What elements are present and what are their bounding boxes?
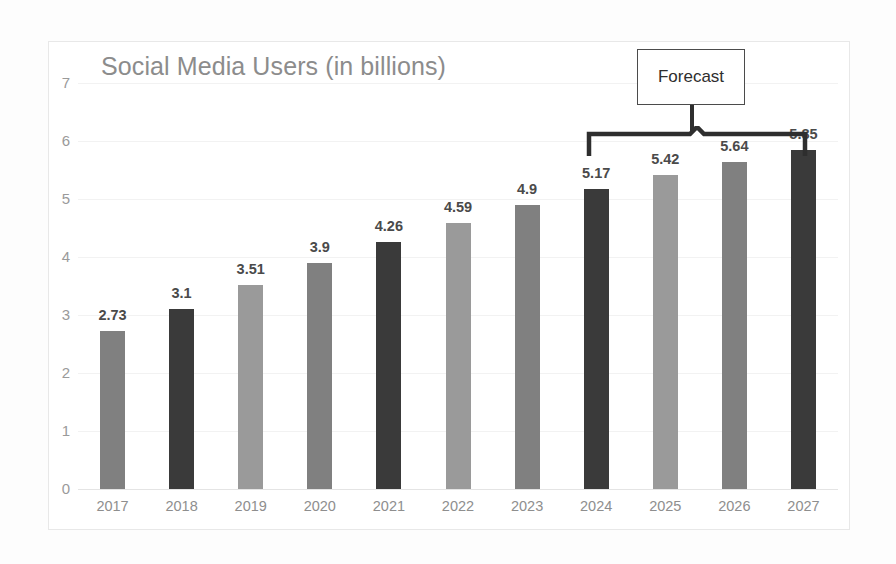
bar-2026[interactable] — [722, 162, 747, 489]
bar-2023[interactable] — [515, 205, 540, 489]
bar-value-label: 2.73 — [83, 307, 143, 323]
y-axis: 76543210 — [44, 83, 70, 489]
forecast-bracket-icon — [586, 126, 808, 158]
x-axis: 2017201820192020202120222023202420252026… — [78, 498, 838, 522]
bar-2017[interactable] — [100, 331, 125, 489]
forecast-annotation-label: Forecast — [637, 49, 745, 105]
bar-2021[interactable] — [376, 242, 401, 489]
bar-value-label: 3.9 — [290, 239, 350, 255]
x-axis-tick-label: 2024 — [566, 498, 626, 514]
x-axis-tick-label: 2026 — [704, 498, 764, 514]
bar-value-label: 5.17 — [566, 165, 626, 181]
x-axis-tick-label: 2018 — [152, 498, 212, 514]
y-axis-tick-label: 3 — [44, 306, 70, 323]
bar-2022[interactable] — [446, 223, 471, 489]
bar-2024[interactable] — [584, 189, 609, 489]
bar-2027[interactable] — [791, 150, 816, 489]
x-axis-tick-label: 2020 — [290, 498, 350, 514]
x-axis-tick-label: 2027 — [773, 498, 833, 514]
bar-2025[interactable] — [653, 175, 678, 489]
bar-2018[interactable] — [169, 309, 194, 489]
chart-title: Social Media Users (in billions) — [101, 52, 446, 81]
x-axis-tick-label: 2025 — [635, 498, 695, 514]
y-axis-tick-label: 6 — [44, 132, 70, 149]
x-axis-tick-label: 2021 — [359, 498, 419, 514]
bar-value-label: 3.51 — [221, 261, 281, 277]
y-axis-tick-label: 5 — [44, 190, 70, 207]
y-axis-tick-label: 7 — [44, 74, 70, 91]
x-axis-tick-label: 2019 — [221, 498, 281, 514]
bar-value-label: 3.1 — [152, 285, 212, 301]
bar-value-label: 4.59 — [428, 199, 488, 215]
y-axis-tick-label: 1 — [44, 422, 70, 439]
bar-value-label: 4.26 — [359, 218, 419, 234]
bar-value-label: 4.9 — [497, 181, 557, 197]
bar-2020[interactable] — [307, 263, 332, 489]
y-axis-tick-label: 2 — [44, 364, 70, 381]
y-axis-tick-label: 0 — [44, 480, 70, 497]
x-axis-tick-label: 2023 — [497, 498, 557, 514]
x-axis-tick-label: 2017 — [83, 498, 143, 514]
y-axis-tick-label: 4 — [44, 248, 70, 265]
x-axis-tick-label: 2022 — [428, 498, 488, 514]
bar-2019[interactable] — [238, 285, 263, 489]
gridline — [78, 489, 838, 490]
